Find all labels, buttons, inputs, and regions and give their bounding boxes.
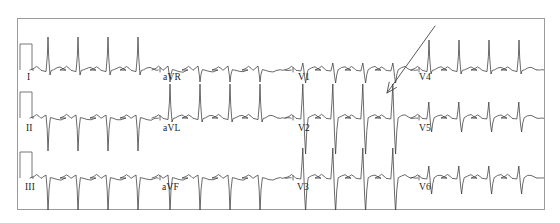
ecg-trace-avl (152, 84, 291, 122)
lead-label-avr: aVR (163, 72, 181, 82)
lead-label-ii: II (26, 123, 33, 133)
ecg-trace-v3 (285, 148, 418, 212)
lead-label-v3: V3 (297, 182, 309, 192)
ecg-canvas: IaVRV1V4IIaVLV2V5IIIaVFV3V6 (0, 0, 560, 223)
lead-label-avl: aVL (163, 123, 180, 133)
ecg-trace-iii (30, 174, 158, 212)
calibration-pulse (20, 44, 34, 70)
ecg-trace-v2 (285, 84, 418, 154)
lead-label-v5: V5 (419, 123, 431, 133)
lead-label-v2: V2 (298, 123, 310, 133)
lead-label-v6: V6 (419, 182, 431, 192)
ecg-lead-label-group: IaVRV1V4IIaVLV2V5IIIaVFV3V6 (25, 72, 431, 192)
ecg-trace-avf (152, 175, 291, 212)
ecg-trace-ii (30, 114, 158, 151)
ecg-trace-i (30, 37, 158, 75)
calibration-pulse (20, 152, 34, 178)
ecg-trace-v4 (411, 40, 544, 74)
ecg-figure: IaVRV1V4IIaVLV2V5IIIaVFV3V6 (0, 0, 560, 223)
ecg-frame-border (18, 19, 545, 210)
ecg-trace-group (20, 37, 544, 212)
lead-label-i: I (27, 72, 30, 82)
lead-label-v1: V1 (298, 72, 310, 82)
calibration-pulse (20, 92, 34, 118)
lead-label-iii: III (25, 182, 35, 192)
lead-label-v4: V4 (419, 72, 431, 82)
lead-label-avf: aVF (162, 182, 179, 192)
